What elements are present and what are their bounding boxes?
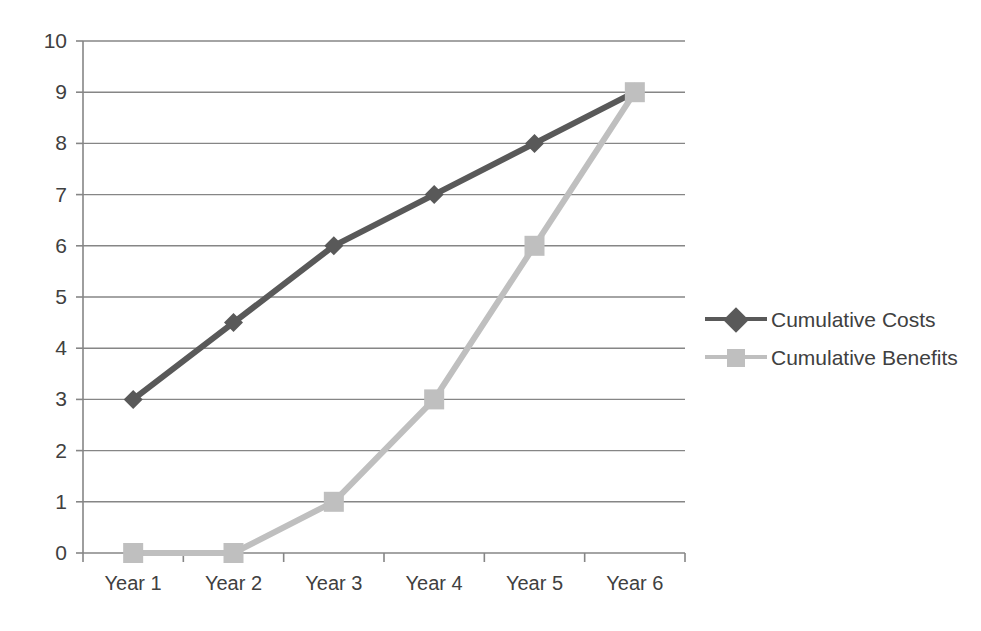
y-axis-tick-label: 8 [0, 132, 67, 153]
x-axis-tick-label: Year 1 [83, 573, 183, 593]
x-axis-tick-label: Year 6 [585, 573, 685, 593]
data-point-marker [123, 543, 143, 563]
legend-item[interactable]: Cumulative Costs [705, 300, 973, 338]
y-axis-tick-label: 1 [0, 491, 67, 512]
data-point-marker [625, 82, 645, 102]
legend-item[interactable]: Cumulative Benefits [705, 338, 973, 376]
y-axis-tick-label: 0 [0, 542, 67, 563]
y-axis-tick-label: 5 [0, 286, 67, 307]
data-point-marker [525, 236, 545, 256]
x-axis-tick-label: Year 5 [484, 573, 584, 593]
x-axis-tick-label: Year 3 [284, 573, 384, 593]
chart-legend: Cumulative CostsCumulative Benefits [705, 300, 973, 376]
y-axis-tick-label: 6 [0, 235, 67, 256]
y-axis-tick-label: 2 [0, 440, 67, 461]
legend-key [705, 347, 767, 367]
y-axis-tick-label: 7 [0, 184, 67, 205]
legend-label: Cumulative Benefits [767, 347, 958, 368]
series-line [133, 92, 635, 553]
legend-key [705, 309, 767, 329]
data-point-marker [224, 543, 244, 563]
data-point-marker [424, 389, 444, 409]
legend-square-marker-icon [727, 349, 745, 367]
y-axis-tick-label: 4 [0, 337, 67, 358]
legend-diamond-marker-icon [723, 307, 748, 332]
x-axis-tick-label: Year 4 [384, 573, 484, 593]
y-axis-tick-label: 3 [0, 388, 67, 409]
series-2 [123, 82, 645, 563]
y-axis-tick-label: 10 [0, 30, 67, 51]
x-axis-tick-label: Year 2 [183, 573, 283, 593]
legend-label: Cumulative Costs [767, 309, 936, 330]
y-axis-tick-label: 9 [0, 81, 67, 102]
line-chart: 012345678910 Year 1Year 2Year 3Year 4Yea… [0, 0, 981, 631]
data-point-marker [324, 492, 344, 512]
